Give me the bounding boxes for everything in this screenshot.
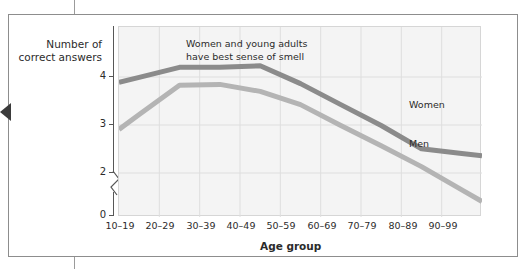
- left-edge-triangle-marker: [0, 103, 11, 121]
- chart-annotation: Women and young adults have best sense o…: [186, 38, 307, 63]
- series-label-men: Men: [409, 138, 429, 149]
- y-tick-label-0: 0: [86, 209, 106, 220]
- series-label-women: Women: [409, 99, 445, 110]
- y-tick-mark-0: [109, 215, 113, 216]
- y-tick-mark-4: [109, 76, 113, 77]
- y-tick-label-4: 4: [86, 70, 106, 81]
- y-tick-mark-3: [109, 124, 113, 125]
- x-tick-label-6: 70–79: [339, 220, 385, 231]
- x-tick-label-8: 90–99: [420, 220, 466, 231]
- y-tick-mark-2: [109, 172, 113, 173]
- y-axis-title: Number of correct answers: [14, 38, 102, 64]
- y-tick-label-3: 3: [86, 118, 106, 129]
- x-tick-label-1: 20–29: [137, 220, 183, 231]
- y-axis-line-upper: [113, 26, 114, 173]
- x-tick-label-4: 50–59: [258, 220, 304, 231]
- figure-page: Number of correct answers 4 3 2 0: [0, 0, 531, 269]
- y-tick-label-2: 2: [86, 166, 106, 177]
- x-axis-title: Age group: [260, 240, 321, 252]
